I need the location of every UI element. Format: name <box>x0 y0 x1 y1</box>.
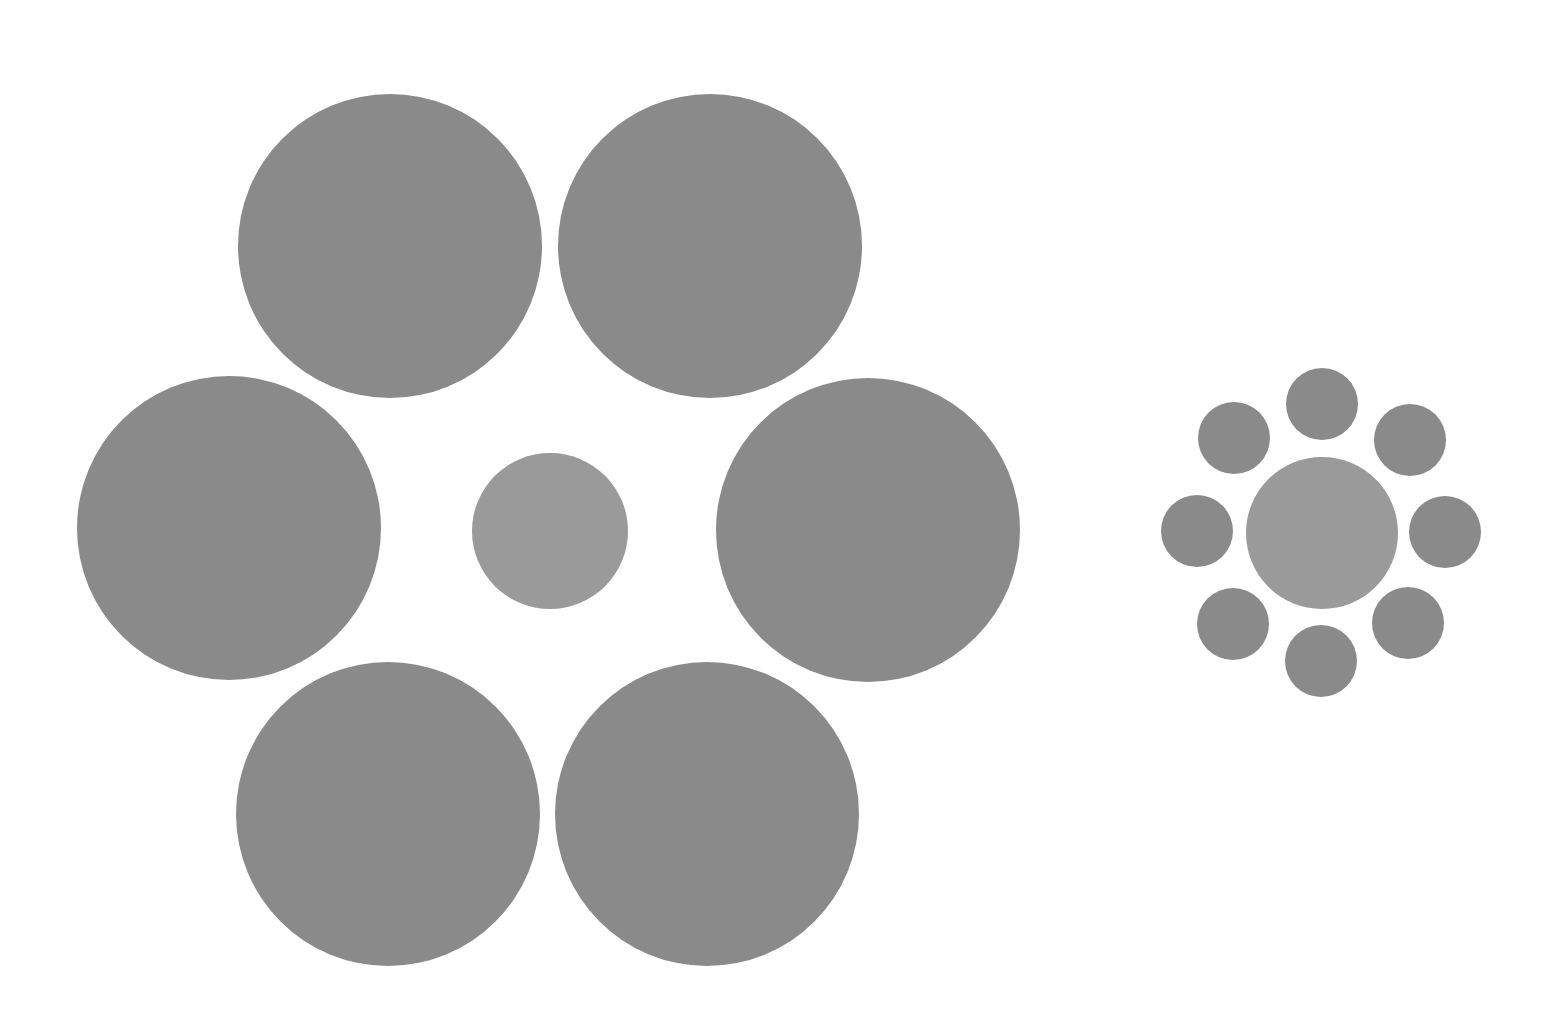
large-surround-group-surround-circle <box>236 662 540 966</box>
small-surround-group-surround-circle <box>1286 368 1358 440</box>
large-surround-group-center-circle <box>472 453 628 609</box>
large-surround-group-surround-circle <box>77 376 381 680</box>
small-surround-group-surround-circle <box>1409 496 1481 568</box>
ebbinghaus-illusion-figure <box>0 0 1563 1020</box>
large-surround-group-surround-circle <box>558 94 862 398</box>
large-surround-group-surround-circle <box>716 378 1020 682</box>
small-surround-group-surround-circle <box>1161 495 1233 567</box>
small-surround-group-surround-circle <box>1198 402 1270 474</box>
small-surround-group-surround-circle <box>1374 404 1446 476</box>
small-surround-group-surround-circle <box>1197 588 1269 660</box>
small-surround-group-surround-circle <box>1285 625 1357 697</box>
large-surround-group-surround-circle <box>238 94 542 398</box>
small-surround-group-center-circle <box>1246 457 1398 609</box>
large-surround-group-surround-circle <box>555 662 859 966</box>
small-surround-group-surround-circle <box>1372 587 1444 659</box>
